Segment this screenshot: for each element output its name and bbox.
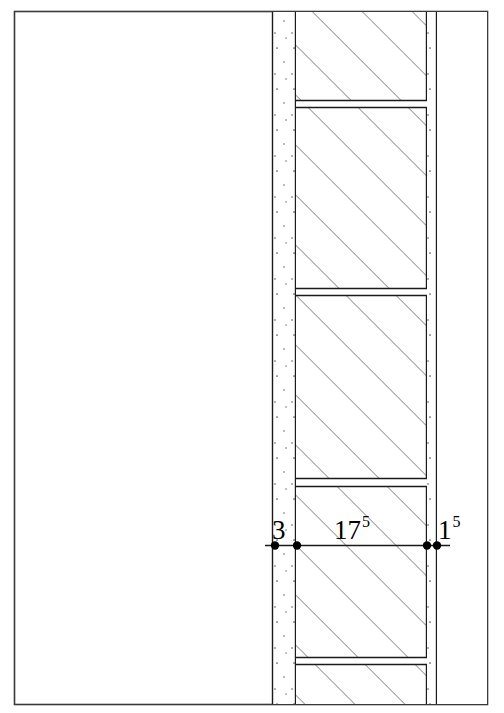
dim-label-3-value: 3	[272, 515, 286, 545]
drawing-sheet: 3 175 15	[0, 0, 504, 713]
dim-label-175-superscript: 5	[362, 513, 370, 530]
dim-label-175: 175	[334, 516, 369, 544]
dim-point-c	[423, 541, 431, 549]
dim-label-3: 3	[272, 516, 286, 544]
joint-band-1	[296, 100, 427, 108]
joint-band-2	[296, 288, 427, 296]
dim-point-b	[293, 541, 301, 549]
dim-label-15-superscript: 5	[453, 513, 461, 530]
dim-label-15-value: 1	[438, 515, 452, 545]
dim-label-175-value: 17	[334, 515, 361, 545]
plaster-layer-right	[427, 12, 437, 704]
technical-drawing	[0, 0, 504, 713]
joint-band-3	[296, 478, 427, 487]
masonry-core	[296, 12, 427, 704]
joint-band-4	[296, 657, 427, 665]
plaster-layer-left	[272, 12, 296, 704]
open-space-right	[437, 12, 487, 704]
dim-label-15: 15	[438, 516, 460, 544]
